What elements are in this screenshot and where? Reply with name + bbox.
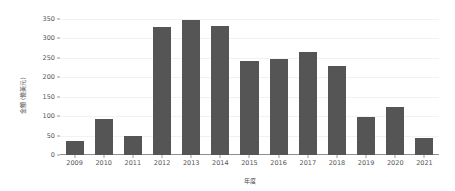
- plot-area: 050100150200250300350 200920102011201220…: [60, 19, 439, 155]
- bar-group: 2016: [264, 19, 293, 155]
- bar-group: 2013: [177, 19, 206, 155]
- x-tick-mark: [220, 155, 221, 158]
- bar-wrapper: [328, 19, 346, 155]
- bar-group: 2010: [89, 19, 118, 155]
- bar-group: 2014: [206, 19, 235, 155]
- bar-group: 2017: [293, 19, 322, 155]
- x-tick-label: 2016: [270, 160, 287, 167]
- x-tick-label: 2018: [329, 160, 346, 167]
- bar-wrapper: [299, 19, 317, 155]
- x-tick-label: 2020: [387, 160, 404, 167]
- x-tick-mark: [74, 155, 75, 158]
- bar-wrapper: [95, 19, 113, 155]
- y-tick-label: 200: [43, 74, 55, 81]
- bar[interactable]: [357, 117, 375, 155]
- bar-wrapper: [124, 19, 142, 155]
- x-tick-label: 2013: [183, 160, 200, 167]
- bar[interactable]: [386, 107, 404, 155]
- x-axis-title: 年度: [60, 176, 440, 185]
- x-tick-label: 2009: [66, 160, 83, 167]
- bar[interactable]: [240, 61, 258, 155]
- bar-group: 2021: [410, 19, 439, 155]
- y-tick-label: 100: [43, 113, 55, 120]
- x-tick-mark: [336, 155, 337, 158]
- bar-wrapper: [357, 19, 375, 155]
- x-tick-label: 2021: [416, 160, 433, 167]
- x-tick-label: 2015: [241, 160, 258, 167]
- x-tick-mark: [191, 155, 192, 158]
- bar-group: 2011: [118, 19, 147, 155]
- bar-group: 2009: [60, 19, 89, 155]
- bar[interactable]: [95, 119, 113, 155]
- bar[interactable]: [66, 141, 84, 155]
- bars-layer: 2009201020112012201320142015201620172018…: [60, 19, 439, 155]
- bar-group: 2018: [322, 19, 351, 155]
- bar[interactable]: [415, 138, 433, 155]
- bar-wrapper: [182, 19, 200, 155]
- bar-group: 2012: [147, 19, 176, 155]
- x-tick-mark: [278, 155, 279, 158]
- bar[interactable]: [124, 136, 142, 155]
- y-tick-label: 350: [43, 16, 55, 23]
- x-tick-mark: [395, 155, 396, 158]
- x-tick-label: 2012: [154, 160, 171, 167]
- bar-group: 2019: [352, 19, 381, 155]
- bar[interactable]: [153, 27, 171, 155]
- x-tick-mark: [249, 155, 250, 158]
- bar-group: 2015: [235, 19, 264, 155]
- x-tick-mark: [103, 155, 104, 158]
- y-tick-label: 300: [43, 35, 55, 42]
- x-tick-label: 2011: [125, 160, 142, 167]
- x-tick-mark: [307, 155, 308, 158]
- y-tick-label: 150: [43, 93, 55, 100]
- x-tick-label: 2017: [300, 160, 317, 167]
- bar[interactable]: [211, 26, 229, 155]
- y-axis-title: 金額 (億美元): [14, 0, 30, 191]
- bar[interactable]: [270, 59, 288, 155]
- x-tick-label: 2010: [95, 160, 112, 167]
- bar-wrapper: [270, 19, 288, 155]
- x-tick-label: 2014: [212, 160, 229, 167]
- bar-wrapper: [386, 19, 404, 155]
- x-tick-mark: [132, 155, 133, 158]
- bar-group: 2020: [381, 19, 410, 155]
- x-tick-mark: [162, 155, 163, 158]
- bar[interactable]: [328, 66, 346, 155]
- x-tick-label: 2019: [358, 160, 375, 167]
- bar-wrapper: [66, 19, 84, 155]
- bar-wrapper: [240, 19, 258, 155]
- x-tick-mark: [366, 155, 367, 158]
- y-tick-label: 50: [47, 132, 55, 139]
- bar-wrapper: [153, 19, 171, 155]
- bar-wrapper: [211, 19, 229, 155]
- y-tick-label: 250: [43, 55, 55, 62]
- bar[interactable]: [299, 52, 317, 155]
- y-tick-label: 0: [51, 152, 55, 159]
- bar-chart-figure: 金額 (億美元) 050100150200250300350 200920102…: [0, 0, 455, 191]
- bar-wrapper: [415, 19, 433, 155]
- bar[interactable]: [182, 20, 200, 155]
- x-tick-mark: [424, 155, 425, 158]
